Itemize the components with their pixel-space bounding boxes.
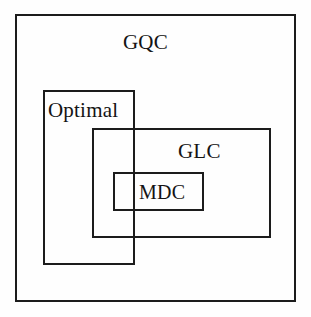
set-label-mdc: MDC	[139, 182, 185, 202]
set-label-glc: GLC	[178, 141, 221, 162]
set-label-gqc: GQC	[123, 32, 168, 53]
set-diagram-canvas: GQC GLC Optimal MDC	[0, 0, 311, 317]
set-label-optimal: Optimal	[48, 100, 118, 121]
